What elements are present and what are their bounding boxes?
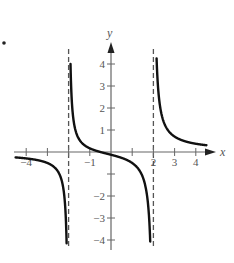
plot-area: −4−12344321−2−3−4 x y xyxy=(0,0,234,263)
y-axis-arrow-icon xyxy=(108,42,115,53)
x-axis-label: x xyxy=(219,145,226,159)
x-tick-label: −1 xyxy=(84,156,96,168)
y-axis-label: y xyxy=(106,26,113,40)
middle-branch xyxy=(71,64,151,242)
x-axis-arrow-icon xyxy=(205,149,216,156)
y-tick-label: 3 xyxy=(100,80,106,92)
axes xyxy=(14,42,216,250)
y-tick-label: 4 xyxy=(100,58,106,70)
y-tick-label: −2 xyxy=(93,190,105,202)
left-branch xyxy=(16,157,67,243)
bullet-marker xyxy=(2,41,6,45)
x-tick-label: 2 xyxy=(151,156,157,168)
right-branch xyxy=(157,58,207,145)
y-tick-label: 1 xyxy=(100,124,106,136)
y-tick-label: 2 xyxy=(100,102,106,114)
rational-function-graph: −4−12344321−2−3−4 x y xyxy=(0,0,234,263)
x-tick-label: 4 xyxy=(193,156,199,168)
x-tick-label: 3 xyxy=(172,156,178,168)
y-tick-label: −3 xyxy=(93,212,105,224)
y-tick-label: −4 xyxy=(93,234,105,246)
